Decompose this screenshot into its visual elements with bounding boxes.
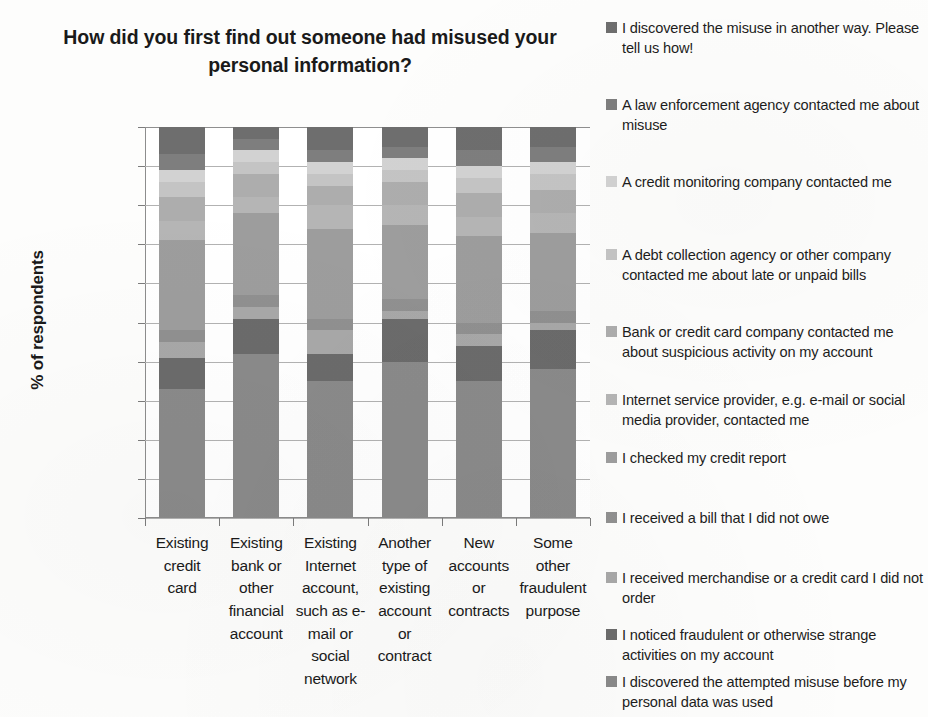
legend-item-label: I noticed fraudulent or otherwise strang… (622, 625, 926, 665)
bar-segment (382, 299, 428, 311)
legend-item-label: A credit monitoring company contacted me (622, 172, 926, 192)
bar-segment (382, 170, 428, 182)
y-tick-mark (138, 518, 145, 519)
bar-segment (456, 334, 502, 346)
bar-segment (382, 311, 428, 319)
x-category-label-line: account, (292, 577, 368, 600)
x-category-label-line: Existing (144, 532, 220, 555)
legend-item[interactable]: I received a bill that I did not owe (606, 508, 926, 528)
x-category-label-line: Another (367, 532, 443, 555)
x-category-label-line: Some (515, 532, 591, 555)
x-category-label: Someotherfraudulentpurpose (515, 532, 591, 623)
bar-segment (159, 221, 205, 241)
bar-segment (456, 193, 502, 216)
legend-item[interactable]: A credit monitoring company contacted me (606, 172, 926, 192)
bar-segment (456, 323, 502, 335)
bar-segment (233, 162, 279, 174)
gridline (145, 166, 590, 167)
bar-segment (159, 389, 205, 518)
y-tick-mark (138, 323, 145, 324)
x-category-label: Existingbank orotherfinancialaccount (218, 532, 294, 645)
legend-swatch-icon (606, 394, 617, 405)
x-category-label-line: account (367, 600, 443, 623)
x-category-label-line: card (144, 577, 220, 600)
legend-item-label: A law enforcement agency contacted me ab… (622, 95, 926, 135)
x-tick-mark (293, 518, 294, 526)
legend-item[interactable]: Internet service provider, e.g. e-mail o… (606, 390, 926, 430)
y-tick-mark (138, 205, 145, 206)
legend-item[interactable]: I received merchandise or a credit card … (606, 568, 926, 608)
bar-segment (307, 381, 353, 518)
gridline (145, 401, 590, 402)
legend-swatch-icon (606, 99, 617, 110)
bar-segment (307, 319, 353, 331)
bar-segment (382, 319, 428, 362)
y-tick-mark (138, 244, 145, 245)
legend-item[interactable]: I discovered the attempted misuse before… (606, 672, 926, 712)
legend-swatch-icon (606, 676, 617, 687)
chart-title: How did you first find out someone had m… (60, 24, 560, 79)
bar-segment (382, 158, 428, 170)
legend-item-label: I discovered the attempted misuse before… (622, 672, 926, 712)
bar-segment (307, 186, 353, 206)
stacked-bar (382, 127, 428, 518)
gridline (145, 205, 590, 206)
bar-segment (233, 213, 279, 295)
legend-item[interactable]: Bank or credit card company contacted me… (606, 322, 926, 362)
chart-panel: How did you first find out someone had m… (0, 0, 600, 717)
bar-segment (530, 330, 576, 369)
bar-segment (233, 354, 279, 518)
bar-segment (456, 178, 502, 194)
bar-segment (233, 139, 279, 151)
gridline (145, 127, 590, 128)
x-category-label-line: type of (367, 555, 443, 578)
legend-swatch-icon (606, 629, 617, 640)
bar-segment (159, 342, 205, 358)
x-category-label-line: financial (218, 600, 294, 623)
legend-item-label: Bank or credit card company contacted me… (622, 322, 926, 362)
legend-item-label: I received merchandise or a credit card … (622, 568, 926, 608)
x-category-label-line: or (367, 623, 443, 646)
x-category-label-line: contracts (441, 600, 517, 623)
bar-segment (456, 150, 502, 166)
bar-segment (233, 150, 279, 162)
legend-item[interactable]: I checked my credit report (606, 448, 926, 468)
bar-segment (456, 127, 502, 150)
legend-item-label: I discovered the misuse in another way. … (622, 18, 926, 58)
y-tick-mark (138, 479, 145, 480)
legend-swatch-icon (606, 452, 617, 463)
stacked-bar (456, 127, 502, 518)
gridline (145, 283, 590, 284)
legend-swatch-icon (606, 512, 617, 523)
legend-item[interactable]: A law enforcement agency contacted me ab… (606, 95, 926, 135)
x-tick-mark (590, 518, 591, 526)
bar-segment (530, 190, 576, 213)
legend-item[interactable]: A debt collection agency or other compan… (606, 245, 926, 285)
x-category-label: Newaccountsorcontracts (441, 532, 517, 623)
gridline (145, 440, 590, 441)
bar-segment (456, 217, 502, 237)
bar-segment (233, 307, 279, 319)
x-category-label-line: fraudulent (515, 577, 591, 600)
x-tick-mark (219, 518, 220, 526)
bar-segment (233, 197, 279, 213)
x-category-label-line: credit (144, 555, 220, 578)
bar-segment (530, 323, 576, 331)
stacked-bar (159, 127, 205, 518)
gridline (145, 323, 590, 324)
bar-segment (307, 229, 353, 319)
bar-segment (307, 174, 353, 186)
legend-item[interactable]: I noticed fraudulent or otherwise strang… (606, 625, 926, 665)
legend-swatch-icon (606, 572, 617, 583)
x-category-label-line: Existing (292, 532, 368, 555)
legend-item[interactable]: I discovered the misuse in another way. … (606, 18, 926, 58)
x-category-label-line: contract (367, 645, 443, 668)
gridline (145, 479, 590, 480)
bar-segment (159, 197, 205, 220)
legend-item-label: A debt collection agency or other compan… (622, 245, 926, 285)
bar-segment (159, 182, 205, 198)
bar-segment (382, 225, 428, 299)
x-category-label-line: or (441, 577, 517, 600)
stacked-bar (307, 127, 353, 518)
bar-segment (159, 170, 205, 182)
